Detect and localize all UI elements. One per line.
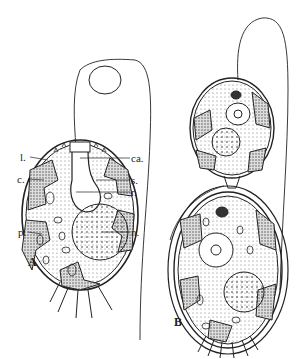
label-s: s. (131, 175, 138, 186)
label-n: n. (131, 227, 139, 238)
label-l: l. (20, 152, 26, 163)
panel-label-a: A (28, 256, 37, 268)
label-ca: ca. (131, 153, 144, 164)
panel-b-cells (168, 18, 288, 358)
panel-a-cell (22, 59, 151, 340)
cell-illustration (0, 0, 307, 359)
panel-label-b: B (174, 316, 182, 328)
diagram-figure: l. c. p. ca. s. r. n. A B (0, 0, 307, 359)
label-c: c. (17, 174, 25, 185)
label-p: p. (18, 227, 26, 238)
label-r: r. (131, 187, 137, 198)
